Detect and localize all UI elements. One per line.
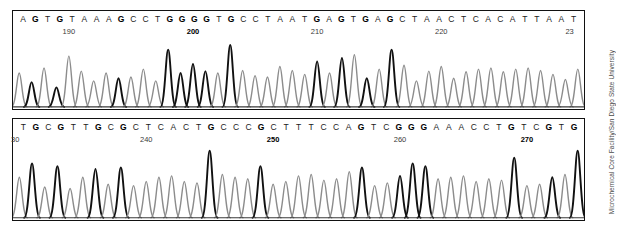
trace-peak [136,69,151,107]
base-call: G [164,15,176,24]
base-call: G [335,15,347,24]
trace-peak [570,69,584,107]
base-call: G [176,15,188,24]
base-call: T [518,123,531,132]
trace-plot [13,145,584,220]
base-call: A [274,15,286,24]
trace-peak [396,65,411,107]
trace-peak [558,80,573,107]
base-call: G [418,123,431,132]
trace-peak [202,151,218,218]
trace-peak [100,184,116,217]
trace-peak [123,77,138,107]
trace-peak [138,181,154,217]
trace-peak [88,169,104,218]
position-tick-label: 220 [435,27,448,36]
trace-peak [322,73,337,107]
base-call: C [242,123,255,132]
trace-peak [75,177,91,217]
trace-peak [405,163,421,217]
base-call: C [180,123,193,132]
base-call: G [117,123,130,132]
base-call: T [457,15,469,24]
base-call: T [305,123,318,132]
trace-peak [297,74,312,107]
trace-peak [341,172,357,218]
trace-peak [347,55,362,107]
position-tick-label: 200 [187,27,200,36]
top-trace-area [13,39,584,109]
base-call: G [188,15,200,24]
trace-peak [260,77,275,107]
base-call: G [405,123,418,132]
trace-peak [24,82,39,107]
trace-peak [303,175,319,218]
trace-peak [443,177,459,217]
trace-peak [508,69,523,107]
bottom-basecall-row: TGCGTTGCGCTCACTGCCCGCTTTCCAGTCGGGAAACCTG… [13,119,584,136]
base-call: C [330,123,343,132]
trace-peak [519,186,535,218]
base-call: C [480,123,493,132]
base-call: G [29,15,41,24]
base-call: G [568,123,581,132]
trace-peak [173,73,188,107]
base-call: C [249,15,261,24]
trace-peak [354,168,370,218]
trace-peak [409,81,424,107]
trace-peak [185,64,200,107]
top-trace-panel: AGTGTAAAGCCTGGGGTGCCTAATGAGTGAGCTAACTCAC… [12,10,585,110]
base-call: C [445,15,457,24]
position-tick-label: 250 [267,135,280,144]
trace-peak [198,71,213,107]
trace-peak [481,179,497,218]
trace-peak [379,183,395,218]
base-call: A [433,15,445,24]
trace-peak [235,70,250,106]
base-call: C [130,123,143,132]
trace-peak [50,166,66,218]
base-call: T [192,123,205,132]
base-call: T [568,15,580,24]
trace-peak [520,68,535,107]
base-call: G [384,15,396,24]
base-call: G [92,123,105,132]
base-call: C [317,123,330,132]
position-tick-label: 270 [521,135,534,144]
trace-peak [434,67,449,107]
trace-peak [471,69,486,107]
base-call: A [455,123,468,132]
facility-credit-label: Microchemical Core Facility/San Diego St… [608,50,615,214]
trace-peak [113,168,129,218]
base-call: G [115,15,127,24]
trace-peak [210,73,225,107]
trace-peak [309,61,324,107]
trace-peak [468,181,484,217]
trace-peak [126,186,142,218]
trace-peak [446,78,461,107]
trace-peak [215,175,231,218]
base-call: G [255,123,268,132]
base-call: A [342,123,355,132]
base-call: C [237,15,249,24]
base-call: T [67,123,80,132]
base-call: C [396,15,408,24]
trace-peak [37,187,53,218]
trace-peak [148,81,163,107]
trace-peak [160,50,175,107]
trace-peak [111,78,126,107]
trace-peak [223,45,238,107]
trace-peak [533,70,548,106]
base-call: G [355,123,368,132]
base-call: G [205,123,218,132]
base-call: T [555,123,568,132]
base-call: T [298,15,310,24]
base-call: T [152,15,164,24]
base-call: C [267,123,280,132]
base-call: C [127,15,139,24]
base-call: G [54,15,66,24]
trace-plot [13,39,584,109]
base-call: T [213,15,225,24]
top-position-ruler: 19020021022023 [13,27,584,39]
trace-peak [483,68,498,107]
